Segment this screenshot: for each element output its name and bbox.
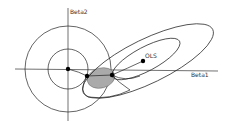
x-axis-label: Beta1 <box>191 71 209 78</box>
ridge-lasso-diagram: Beta2 Beta1 OLS <box>0 0 228 130</box>
y-axis-label: Beta2 <box>70 8 88 15</box>
intersection-right-point <box>110 73 114 77</box>
intersection-left-point <box>85 74 89 78</box>
x-axis <box>15 69 218 71</box>
origin-point <box>66 67 70 71</box>
shaded-region <box>85 65 117 92</box>
ols-label: OLS <box>145 52 157 59</box>
inner-contour-ellipse <box>107 31 185 88</box>
diagram: Beta2 Beta1 OLS <box>0 0 228 130</box>
outer-contour-ellipse <box>74 10 223 113</box>
ols-point <box>141 59 145 63</box>
